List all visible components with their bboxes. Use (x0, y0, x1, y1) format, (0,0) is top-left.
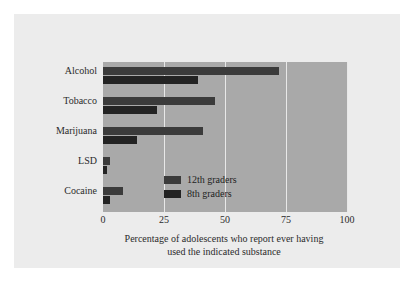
x-tick-100: 100 (340, 214, 355, 225)
bar-cocaine-8th-graders (103, 196, 110, 204)
category-row: Alcohol (103, 62, 347, 92)
chart-screenshot: AlcoholTobaccoMarijuanaLSDCocaine 025507… (0, 0, 415, 288)
bar-lsd-12th-graders (103, 157, 110, 165)
category-label-marijuana: Marijuana (56, 124, 97, 138)
x-tick-0: 0 (101, 214, 106, 225)
category-label-alcohol: Alcohol (65, 64, 97, 78)
chart-card: AlcoholTobaccoMarijuanaLSDCocaine 025507… (14, 14, 400, 268)
bar-marijuana-12th-graders (103, 127, 203, 135)
x-axis-tick-labels: 0255075100 (103, 214, 347, 230)
category-row: Tobacco (103, 92, 347, 122)
category-label-cocaine: Cocaine (64, 184, 97, 198)
legend-swatch-icon (164, 190, 181, 198)
caption-line-2: used the indicated substance (74, 245, 374, 258)
bar-alcohol-8th-graders (103, 76, 198, 84)
category-label-tobacco: Tobacco (63, 94, 97, 108)
x-tick-50: 50 (220, 214, 230, 225)
chart-legend: 12th graders8th graders (164, 174, 284, 202)
legend-item-8th-graders: 8th graders (164, 188, 284, 199)
gridline-100 (347, 62, 348, 212)
bar-alcohol-12th-graders (103, 67, 279, 75)
category-label-lsd: LSD (78, 154, 97, 168)
x-axis-caption: Percentage of adolescents who report eve… (74, 232, 374, 258)
bar-tobacco-12th-graders (103, 97, 215, 105)
caption-line-1: Percentage of adolescents who report eve… (74, 232, 374, 245)
x-tick-25: 25 (159, 214, 169, 225)
bar-tobacco-8th-graders (103, 106, 157, 114)
legend-label: 8th graders (187, 188, 232, 199)
legend-item-12th-graders: 12th graders (164, 174, 284, 185)
bar-cocaine-12th-graders (103, 187, 123, 195)
category-row: Marijuana (103, 122, 347, 152)
legend-swatch-icon (164, 176, 181, 184)
bar-marijuana-8th-graders (103, 136, 137, 144)
bar-lsd-8th-graders (103, 166, 107, 174)
legend-label: 12th graders (187, 174, 237, 185)
x-tick-75: 75 (281, 214, 291, 225)
